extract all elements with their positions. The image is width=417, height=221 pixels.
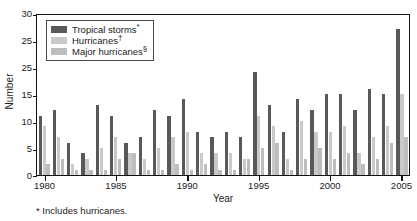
bar-group <box>280 15 294 175</box>
bar-tropical_storms <box>296 99 299 175</box>
x-tick-label: 2000 <box>319 181 340 191</box>
x-axis-title: Year <box>36 193 410 204</box>
bar-major_hurricanes <box>347 153 350 175</box>
y-axis-tick-labels: 051015252530 <box>8 0 32 221</box>
bar-group <box>352 15 366 175</box>
bar-hurricanes <box>357 153 360 175</box>
bar-major_hurricanes <box>318 148 321 175</box>
bar-hurricanes <box>214 153 217 175</box>
legend-label: Major hurricanes§ <box>72 46 147 57</box>
bar-major_hurricanes <box>290 170 293 175</box>
bar-major_hurricanes <box>275 143 278 175</box>
bar-hurricanes <box>43 126 46 175</box>
bar-tropical_storms <box>310 110 313 175</box>
bar-hurricanes <box>71 164 74 175</box>
bar-major_hurricanes <box>161 170 164 175</box>
y-tick-mark <box>33 96 37 97</box>
bar-major_hurricanes <box>233 170 236 175</box>
bar-tropical_storms <box>39 116 42 175</box>
bar-group <box>166 15 180 175</box>
bar-tropical_storms <box>325 94 328 175</box>
legend-footnote-marker: * <box>137 22 140 31</box>
bar-major_hurricanes <box>132 153 135 175</box>
legend-item: Tropical storms* <box>51 24 147 35</box>
bar-group <box>180 15 194 175</box>
bar-tropical_storms <box>196 132 199 175</box>
bar-hurricanes <box>372 137 375 175</box>
bar-tropical_storms <box>182 99 185 175</box>
x-tick-label: 1995 <box>248 181 269 191</box>
bar-hurricanes <box>200 153 203 175</box>
bar-tropical_storms <box>53 110 56 175</box>
bar-tropical_storms <box>153 110 156 175</box>
bar-major_hurricanes <box>190 170 193 175</box>
bar-major_hurricanes <box>104 170 107 175</box>
bar-tropical_storms <box>382 94 385 175</box>
bar-group <box>381 15 395 175</box>
bar-major_hurricanes <box>218 170 221 175</box>
y-tick-mark <box>33 69 37 70</box>
x-axis-tick-labels: 198019851990199520002005 <box>36 181 410 193</box>
y-tick-label: 25 <box>21 63 32 73</box>
bar-group <box>194 15 208 175</box>
bar-hurricanes <box>128 153 131 175</box>
bar-major_hurricanes <box>175 164 178 175</box>
hurricane-activity-bar-chart: Number 051015252530 19801985199019952000… <box>0 0 417 221</box>
bar-tropical_storms <box>353 110 356 175</box>
bar-hurricanes <box>186 132 189 175</box>
y-tick-label: 0 <box>27 171 32 181</box>
bar-hurricanes <box>343 126 346 175</box>
chart-footnote: * Includes hurricanes. <box>36 205 127 216</box>
bar-group <box>209 15 223 175</box>
bar-major_hurricanes <box>247 159 250 175</box>
x-tick-label: 1985 <box>105 181 126 191</box>
bar-hurricanes <box>286 159 289 175</box>
bar-hurricanes <box>57 137 60 175</box>
bar-major_hurricanes <box>46 164 49 175</box>
legend-item: Major hurricanes§ <box>51 46 147 57</box>
bar-major_hurricanes <box>390 143 393 175</box>
bar-major_hurricanes <box>147 170 150 175</box>
bar-group <box>266 15 280 175</box>
legend-label: Tropical storms* <box>72 24 140 35</box>
y-tick-label: 5 <box>27 144 32 154</box>
bar-major_hurricanes <box>118 159 121 175</box>
bar-tropical_storms <box>139 137 142 175</box>
y-tick-label: 10 <box>21 117 32 127</box>
bar-hurricanes <box>229 153 232 175</box>
bar-major_hurricanes <box>89 170 92 175</box>
bar-group <box>252 15 266 175</box>
bar-major_hurricanes <box>304 159 307 175</box>
legend-footnote-marker: § <box>143 44 147 53</box>
bar-group <box>366 15 380 175</box>
bar-major_hurricanes <box>376 159 379 175</box>
bar-tropical_storms <box>210 137 213 175</box>
bar-hurricanes <box>157 148 160 175</box>
bar-tropical_storms <box>396 29 399 175</box>
bar-tropical_storms <box>268 105 271 175</box>
bar-hurricanes <box>114 137 117 175</box>
bar-tropical_storms <box>239 137 242 175</box>
bar-hurricanes <box>171 137 174 175</box>
legend-item: Hurricanes† <box>51 35 147 46</box>
bar-group <box>323 15 337 175</box>
chart-legend: Tropical storms*Hurricanes†Major hurrica… <box>46 20 154 61</box>
x-tick-label: 1980 <box>34 181 55 191</box>
bar-major_hurricanes <box>261 148 264 175</box>
bar-tropical_storms <box>167 116 170 175</box>
y-tick-label: 15 <box>21 90 32 100</box>
x-tick-label: 1990 <box>177 181 198 191</box>
bar-group <box>223 15 237 175</box>
bar-tropical_storms <box>124 143 127 175</box>
bar-group <box>237 15 251 175</box>
bar-tropical_storms <box>81 153 84 175</box>
bar-hurricanes <box>329 132 332 175</box>
bar-hurricanes <box>85 159 88 175</box>
bar-major_hurricanes <box>204 164 207 175</box>
bar-tropical_storms <box>368 89 371 175</box>
bar-hurricanes <box>400 94 403 175</box>
bar-hurricanes <box>272 126 275 175</box>
bar-group <box>295 15 309 175</box>
bar-hurricanes <box>243 159 246 175</box>
bar-hurricanes <box>314 132 317 175</box>
